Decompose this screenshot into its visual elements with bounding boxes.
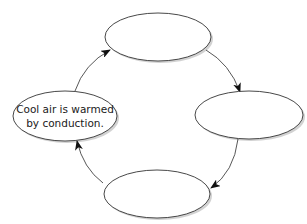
edge-bottom-to-left [77,141,103,183]
edge-top-to-right [206,50,240,92]
cycle-diagram: Cool air is warmed by conduction. [0,0,307,224]
node-left-line2: by conduction. [26,117,104,129]
edge-left-to-top [75,50,110,91]
node-right [195,91,303,139]
node-bottom [104,170,210,218]
node-left: Cool air is warmed by conduction. [13,91,117,141]
edge-right-to-bottom [211,139,238,188]
node-left-line1: Cool air is warmed [16,103,114,115]
node-top [105,13,211,61]
